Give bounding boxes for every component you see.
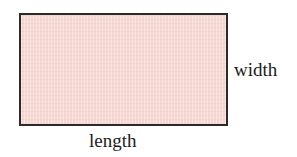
label-width: width	[234, 60, 277, 79]
rectangle-diagram: width length	[0, 0, 297, 157]
rectangle-fill-texture	[21, 15, 226, 124]
label-length: length	[89, 131, 137, 150]
rectangle-shape	[19, 13, 228, 126]
